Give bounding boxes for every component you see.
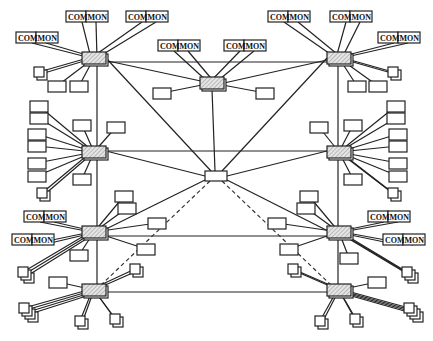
com-label: COM — [68, 13, 88, 22]
terminal-box — [280, 244, 298, 255]
com-label: COM — [270, 13, 290, 22]
center-node — [205, 171, 227, 181]
hub-h8 — [82, 284, 108, 298]
square-device — [110, 314, 120, 324]
terminal-box — [118, 203, 136, 214]
hub-h7 — [327, 226, 353, 240]
com-label: COM — [14, 236, 34, 245]
mon-label: MON — [390, 213, 410, 222]
hub-h3 — [327, 52, 353, 66]
hub-h5 — [327, 146, 353, 160]
terminal-box — [30, 101, 48, 112]
com-mon-label-box: COMMON — [12, 234, 54, 245]
com-label: COM — [26, 213, 46, 222]
com-label: COM — [226, 42, 246, 51]
terminal-box — [28, 141, 46, 152]
com-mon-label-box: COMMON — [378, 32, 420, 43]
terminal-box — [256, 88, 274, 99]
com-mon-label-box: COMMON — [330, 11, 372, 22]
terminal-box — [268, 218, 286, 229]
com-label: COM — [160, 42, 180, 51]
terminal-box — [48, 81, 66, 92]
terminal-box — [344, 120, 362, 131]
center-link — [106, 58, 211, 171]
terminal-box — [73, 120, 91, 131]
center-link — [222, 58, 327, 171]
terminal-box — [389, 158, 407, 169]
terminal-box — [28, 158, 46, 169]
square-device — [37, 188, 47, 198]
terminal-box — [387, 101, 405, 112]
mon-label: MON — [246, 42, 266, 51]
terminal-box — [107, 122, 125, 133]
square-device — [130, 264, 140, 274]
square-device — [388, 67, 398, 77]
terminal-box — [148, 218, 166, 229]
com-label: COM — [332, 13, 352, 22]
square-device — [402, 267, 412, 277]
hub-h2 — [200, 77, 226, 91]
hub-h4 — [82, 146, 108, 160]
com-label: COM — [385, 236, 405, 245]
terminal-box — [340, 253, 358, 264]
terminal-box — [115, 191, 133, 202]
square-device — [315, 316, 325, 326]
com-label: COM — [18, 34, 38, 43]
terminal-box — [368, 277, 386, 288]
hub-h1 — [82, 52, 108, 66]
mon-label: MON — [400, 34, 420, 43]
center-node-box — [205, 171, 227, 181]
center-link — [227, 151, 327, 176]
com-label: COM — [380, 34, 400, 43]
center-link — [212, 89, 215, 171]
terminal-box — [389, 141, 407, 152]
terminal-box — [70, 81, 88, 92]
com-mon-label-box: COMMON — [383, 234, 425, 245]
terminal-box — [28, 129, 46, 140]
com-mon-label-box: COMMON — [126, 11, 168, 22]
com-label: COM — [370, 213, 390, 222]
com-mon-label-box: COMMON — [16, 32, 58, 43]
com-mon-label-box: COMMON — [66, 11, 108, 22]
square-device — [388, 188, 398, 198]
com-mon-label-box: COMMON — [224, 40, 266, 51]
center-link — [106, 151, 205, 176]
terminal-box — [28, 171, 46, 182]
mon-label: MON — [290, 13, 310, 22]
hub-h6 — [82, 226, 108, 240]
square-device — [404, 303, 414, 313]
mon-label: MON — [88, 13, 108, 22]
mon-label: MON — [34, 236, 54, 245]
com-mon-label-box: COMMON — [368, 211, 410, 222]
terminal-box — [369, 81, 387, 92]
hub-h9 — [327, 284, 353, 298]
terminal-box — [70, 250, 88, 261]
terminal-box — [73, 174, 91, 185]
com-label: COM — [128, 13, 148, 22]
terminal-box — [348, 81, 366, 92]
mon-label: MON — [46, 213, 66, 222]
com-mon-label-box: COMMON — [158, 40, 200, 51]
mon-label: MON — [148, 13, 168, 22]
terminal-box — [49, 277, 67, 288]
terminal-box — [297, 203, 315, 214]
terminal-box — [344, 174, 362, 185]
network-diagram: COMMONCOMMONCOMMONCOMMONCOMMONCOMMONCOMM… — [0, 0, 433, 341]
mon-label: MON — [352, 13, 372, 22]
terminal-box — [387, 113, 405, 124]
square-device — [350, 314, 360, 324]
square-device — [18, 267, 28, 277]
terminal-box — [300, 191, 318, 202]
terminal-box — [389, 171, 407, 182]
com-mon-label-box: COMMON — [268, 11, 310, 22]
mon-label: MON — [38, 34, 58, 43]
terminal-box — [137, 244, 155, 255]
square-device — [19, 303, 29, 313]
terminal-box — [310, 122, 328, 133]
terminals — [28, 81, 407, 288]
mon-label: MON — [180, 42, 200, 51]
mon-label: MON — [405, 236, 425, 245]
terminal-box — [153, 88, 171, 99]
square-device — [75, 316, 85, 326]
square-device — [288, 264, 298, 274]
